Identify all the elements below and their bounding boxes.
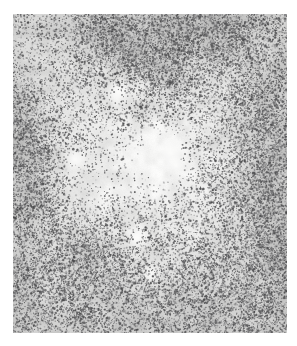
micrograph-canvas [13,14,287,333]
micrograph-plate [13,14,287,333]
micrograph-page [0,0,297,346]
